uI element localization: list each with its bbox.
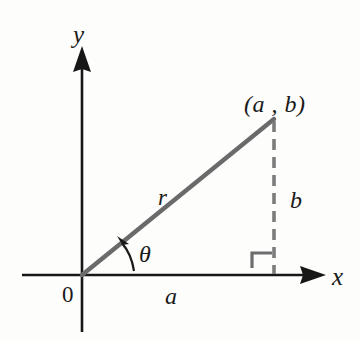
y-axis-arrowhead bbox=[73, 46, 91, 72]
right-angle-marker bbox=[252, 253, 272, 268]
radius-ray bbox=[82, 119, 274, 275]
point-coordinates-label: (a , b) bbox=[244, 92, 305, 116]
diagram-canvas bbox=[0, 0, 360, 341]
opposite-side-label: b bbox=[290, 188, 302, 212]
angle-label: θ bbox=[139, 242, 151, 266]
origin-label: 0 bbox=[62, 283, 74, 306]
coordinate-diagram: y x 0 r a b θ (a , b) bbox=[0, 0, 360, 341]
y-axis-label: y bbox=[73, 22, 84, 47]
x-axis-arrowhead bbox=[300, 266, 326, 284]
adjacent-side-label: a bbox=[165, 284, 177, 308]
x-axis-label: x bbox=[332, 264, 343, 289]
angle-arrow bbox=[122, 243, 134, 271]
radius-label: r bbox=[158, 186, 167, 209]
